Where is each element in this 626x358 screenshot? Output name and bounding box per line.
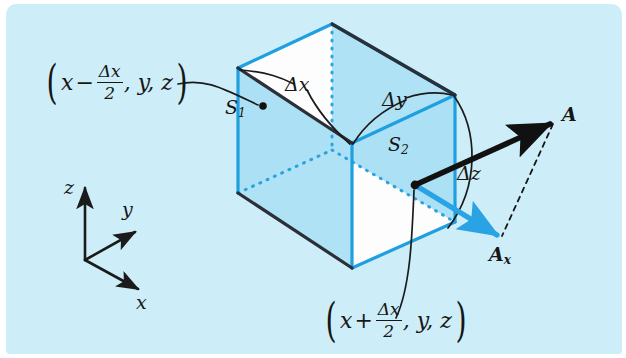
left-paren-close: ) [176, 65, 187, 101]
right-paren-close: ) [455, 303, 466, 339]
right-coord-denominator: 2 [376, 321, 402, 341]
left-paren-open: ( [46, 65, 57, 101]
surface-s1-label: S1 [225, 98, 246, 120]
right-paren-open: ( [325, 303, 336, 339]
delta-x-label: Δx [285, 75, 309, 94]
s1-center-point [259, 102, 267, 110]
vector-ax-label: Ax [489, 245, 511, 267]
axis-label-z: z [64, 178, 74, 197]
right-coord-numerator: Δx [376, 300, 402, 321]
figure-root: ( x − Δx 2 , y, z ) ( x + Δx 2 , y, z ) … [0, 0, 626, 358]
right-coord-var: x [340, 310, 352, 332]
left-coord-sign: − [73, 72, 95, 94]
surface-s1-letter: S [225, 96, 238, 118]
right-face-coordinate: ( x + Δx 2 , y, z ) [322, 300, 470, 341]
vector-ax-letter: A [489, 243, 504, 265]
right-coord-sign: + [352, 310, 374, 332]
surface-s2-letter: S [388, 133, 401, 155]
left-coord-fraction: Δx 2 [97, 62, 123, 103]
delta-z-label: Δz [457, 164, 481, 183]
left-coord-rest: , y, z [124, 72, 173, 94]
left-face-coordinate: ( x − Δx 2 , y, z ) [43, 62, 191, 103]
left-coord-denominator: 2 [97, 83, 123, 103]
right-coord-fraction: Δx 2 [376, 300, 402, 341]
axis-label-x: x [136, 293, 147, 312]
vector-a-label: A [562, 105, 577, 124]
left-coord-var: x [61, 72, 73, 94]
delta-y-label: Δy [382, 90, 406, 109]
vector-ax-subscript: x [504, 253, 511, 267]
figure-vector-graphics [0, 0, 626, 358]
axis-label-y: y [122, 200, 133, 219]
surface-s2-subscript: 2 [401, 143, 409, 157]
surface-s2-label: S2 [388, 135, 409, 157]
right-coord-rest: , y, z [403, 310, 452, 332]
left-coord-numerator: Δx [97, 62, 123, 83]
surface-s1-subscript: 1 [238, 106, 246, 120]
